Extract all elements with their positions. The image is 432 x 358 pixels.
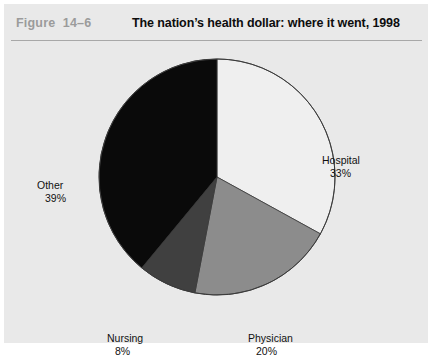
pie-label-other: Other 39%: [37, 179, 97, 205]
header-divider: [11, 40, 422, 41]
figure-number: Figure 14–6: [16, 16, 91, 30]
pie-label-nursing-value: 8%: [107, 345, 179, 358]
pie-label-physician: Physician 20%: [248, 332, 324, 358]
pie-slices: [99, 59, 335, 295]
figure-header: Figure 14–6 The nation’s health dollar: …: [4, 4, 428, 40]
figure-title: The nation’s health dollar: where it wen…: [132, 16, 400, 30]
pie-label-hospital-name: Hospital: [322, 154, 396, 167]
pie-label-hospital: Hospital 33%: [322, 154, 396, 180]
chart-area: Hospital 33% Physician 20% Nursing 8% Ot…: [4, 42, 428, 343]
figure-panel: Figure 14–6 The nation’s health dollar: …: [4, 4, 428, 343]
pie-label-physician-name: Physician: [248, 332, 324, 345]
pie-label-physician-value: 20%: [248, 345, 324, 358]
pie-label-nursing: Nursing 8%: [107, 332, 179, 358]
pie-label-other-value: 39%: [37, 192, 97, 205]
pie-label-other-name: Other: [37, 179, 97, 192]
pie-label-nursing-name: Nursing: [107, 332, 179, 345]
pie-label-hospital-value: 33%: [322, 167, 396, 180]
